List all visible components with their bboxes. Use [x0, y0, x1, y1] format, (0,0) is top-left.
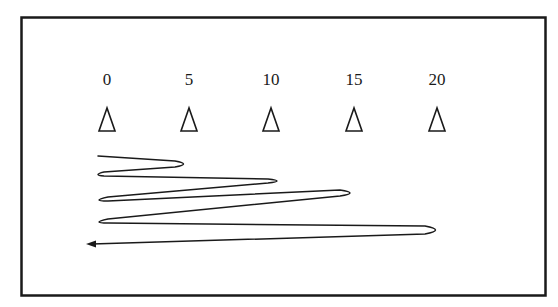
cone-icon — [346, 108, 362, 131]
marker-label-5: 5 — [185, 70, 194, 89]
cone-icon — [429, 108, 445, 131]
cone-icon — [263, 108, 279, 131]
cone-icon — [99, 108, 115, 131]
marker-labels: 0 5 10 15 20 — [103, 70, 446, 89]
cone-icon — [181, 108, 197, 131]
cones — [99, 108, 445, 131]
marker-label-20: 20 — [429, 70, 446, 89]
marker-label-15: 15 — [346, 70, 363, 89]
marker-label-10: 10 — [263, 70, 280, 89]
shuttle-run-diagram: 0 5 10 15 20 — [0, 0, 558, 307]
running-path — [92, 156, 436, 244]
marker-label-0: 0 — [103, 70, 112, 89]
arrow-left-icon — [86, 241, 96, 248]
